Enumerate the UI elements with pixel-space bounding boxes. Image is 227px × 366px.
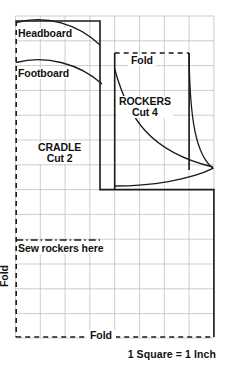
rockers-piece-cut: Cut 4 [119,107,171,118]
scale-caption: 1 Square = 1 Inch [0,348,227,360]
rockers-outline [115,53,189,190]
pattern-drawing [0,0,227,366]
label-footboard: Footboard [17,68,70,79]
label-cradle-piece: CRADLE Cut 2 [36,142,83,164]
rocker-curve-outer [189,53,213,169]
label-rockers-piece: ROCKERS Cut 4 [117,96,173,118]
cradle-piece-cut: Cut 2 [38,153,81,164]
pattern-diagram: Headboard Footboard Fold ROCKERS Cut 4 C… [0,0,227,366]
label-sew-rockers-here: Sew rockers here [17,243,104,254]
label-fold-top: Fold [128,55,156,66]
label-headboard: Headboard [17,28,73,39]
label-fold-bottom: Fold [86,330,116,341]
label-fold-left: Fold [0,262,10,290]
